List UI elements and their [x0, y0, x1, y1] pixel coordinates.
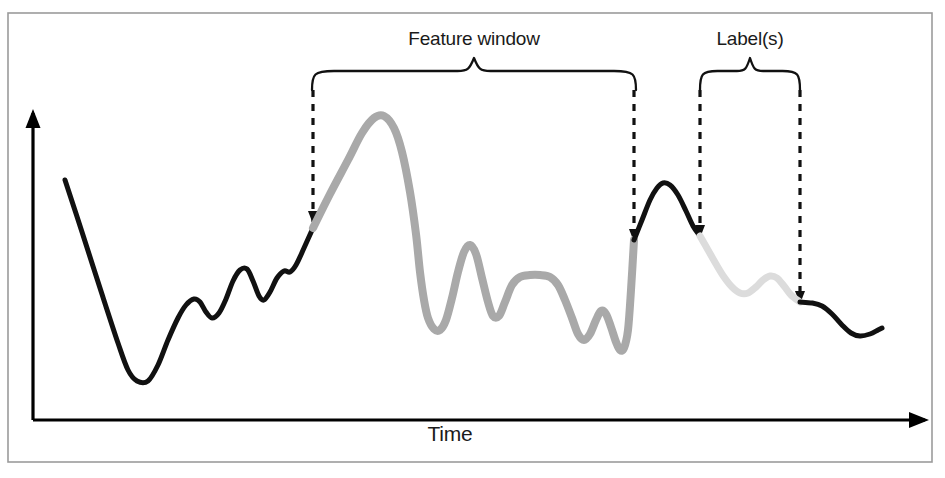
figure-container: Feature window Label(s) Time — [0, 0, 945, 478]
dashed-guides-group — [308, 90, 805, 304]
x-axis-arrowhead-icon — [909, 412, 929, 428]
series-segment-history — [65, 180, 313, 383]
time-axis-label: Time — [427, 422, 472, 446]
time-series-diagram — [0, 0, 945, 478]
series-segment-gap — [634, 183, 700, 240]
y-axis-arrowhead-icon — [26, 109, 41, 128]
series-group — [65, 115, 882, 383]
feature-window-brace — [312, 58, 636, 90]
series-segment-feature-window — [313, 115, 634, 351]
feature-window-label: Feature window — [408, 28, 539, 50]
labels-bracket-label: Label(s) — [716, 28, 783, 50]
labels-brace — [700, 58, 800, 90]
figure-border — [8, 13, 932, 462]
figure-frame — [8, 13, 932, 462]
braces-group — [312, 58, 800, 90]
series-segment-future — [800, 302, 882, 336]
series-segment-label-window — [700, 236, 800, 302]
